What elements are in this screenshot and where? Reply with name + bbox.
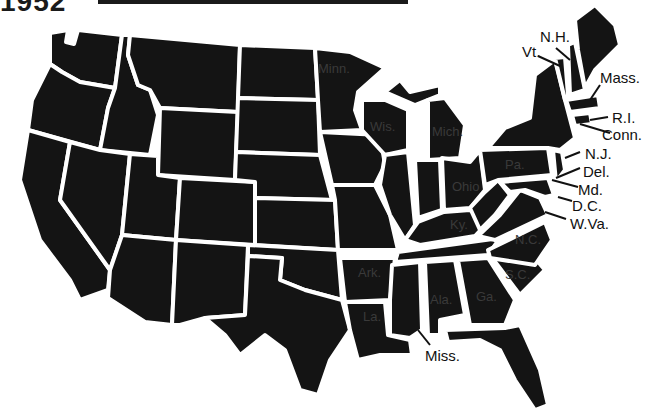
label-kentucky: Ky. [450, 218, 468, 231]
label-delaware: Del. [583, 164, 610, 179]
state-south-dakota [236, 98, 320, 155]
state-kansas [255, 198, 338, 250]
state-florida [445, 325, 548, 410]
label-michigan: Mich. [432, 125, 463, 138]
label-new-hampshire: N.H. [540, 29, 570, 44]
label-south-carolina: S.C. [505, 268, 530, 281]
label-alabama: Ala. [430, 293, 452, 306]
leader-line-dc [558, 197, 572, 201]
state-new-mexico [172, 240, 248, 325]
state-indiana [415, 160, 442, 218]
label-rhode-island: R.I. [612, 110, 635, 125]
label-minnesota: Minn. [318, 62, 350, 75]
label-vermont: Vt. [522, 44, 540, 59]
label-west-virginia: W.Va. [570, 216, 609, 231]
label-wisconsin: Wis. [370, 120, 395, 133]
state-north-dakota [238, 45, 318, 100]
label-mississippi: Miss. [425, 348, 460, 363]
label-north-carolina: N.C. [515, 233, 541, 246]
label-arkansas: Ark. [358, 266, 381, 279]
state-arizona [108, 235, 176, 325]
state-massachusetts [566, 95, 600, 112]
label-georgia: Ga. [476, 290, 497, 303]
label-district-of-columbia: D.C. [572, 198, 602, 213]
state-mississippi [390, 262, 422, 338]
label-massachusetts: Mass. [600, 70, 640, 85]
label-connecticut: Conn. [602, 127, 642, 142]
leader-line-nj [565, 152, 580, 158]
state-colorado [176, 178, 255, 245]
label-new-jersey: N.J. [585, 146, 612, 161]
label-maryland: Md. [578, 182, 603, 197]
label-ohio: Ohio [452, 180, 479, 193]
label-pennsylvania: Pa. [505, 158, 525, 171]
label-louisiana: La. [363, 310, 381, 323]
state-wyoming [158, 108, 238, 180]
